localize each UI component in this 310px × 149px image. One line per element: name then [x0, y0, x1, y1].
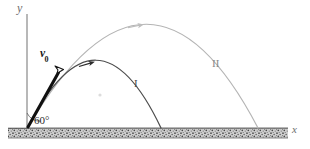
x-axis-label: x — [292, 124, 297, 135]
faint-artifact-dot — [98, 93, 101, 96]
velocity-subscript: 0 — [45, 55, 49, 64]
trajectory-I-label: I — [134, 78, 138, 89]
projectile-motion-figure: y x v0 60° I II — [0, 0, 310, 149]
figure-canvas — [0, 0, 310, 149]
y-axis-label: y — [17, 2, 22, 14]
trajectory-II-label: II — [212, 58, 219, 69]
launch-angle-label: 60° — [34, 115, 49, 126]
ground-band — [8, 128, 288, 138]
initial-velocity-label: v0 — [40, 48, 49, 62]
